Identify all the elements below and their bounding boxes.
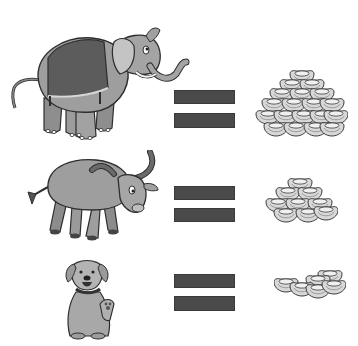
- water-buffalo-image: [26, 150, 166, 242]
- medium-ingot-pile-image: [262, 178, 338, 224]
- equals-bar-bottom: [174, 208, 235, 222]
- elephant-image: [4, 18, 190, 142]
- large-ingot-pile-image: [254, 70, 348, 138]
- equals-bar-bottom: [174, 296, 235, 311]
- equals-bar-top: [174, 186, 235, 200]
- dog-image: [62, 256, 122, 340]
- equals-bar-top: [174, 274, 235, 288]
- illustration: [0, 0, 358, 346]
- small-ingot-pile-image: [274, 270, 346, 300]
- equals-bar-bottom: [174, 113, 235, 128]
- equals-bar-top: [174, 90, 235, 104]
